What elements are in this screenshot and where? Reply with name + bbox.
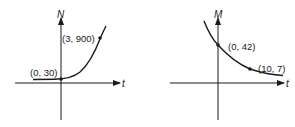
label-10-7: (10, 7) <box>258 63 285 74</box>
growth-graph: N t (0, 30) (3, 900) <box>15 9 126 120</box>
decay-graph: M t (0, 42) (10, 7) <box>170 9 290 120</box>
point-0-42 <box>216 43 220 47</box>
m-axis-label: M <box>214 9 223 20</box>
n-axis-label: N <box>57 9 65 20</box>
label-0-42: (0, 42) <box>228 41 255 52</box>
point-10-7 <box>248 67 252 71</box>
label-0-30: (0, 30) <box>30 67 57 78</box>
t-axis-label: t <box>286 78 290 89</box>
label-3-900: (3, 900) <box>62 33 95 44</box>
point-0-30 <box>59 77 63 81</box>
figure: N t (0, 30) (3, 900) M t (0, 42) (10, 7) <box>0 0 295 127</box>
t-axis-label: t <box>122 78 126 89</box>
point-3-900 <box>98 36 102 40</box>
